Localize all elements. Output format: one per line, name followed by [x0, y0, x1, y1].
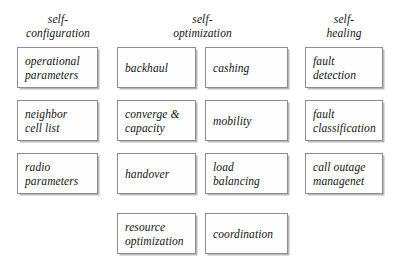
son-taxonomy-diagram: self- configuration self- optimization s… — [0, 0, 397, 268]
node-label: operational parameters — [25, 53, 80, 82]
node-coordination[interactable]: coordination — [205, 213, 288, 254]
node-handover[interactable]: handover — [117, 153, 196, 194]
node-label: backhaul — [125, 60, 168, 75]
node-converge-capacity[interactable]: converge & capacity — [117, 100, 196, 141]
node-label: fault detection — [313, 53, 356, 82]
node-label: neighbor cell list — [25, 106, 67, 135]
node-neighbor-cell-list[interactable]: neighbor cell list — [17, 100, 98, 141]
column-header-self-healing: self- healing — [305, 12, 383, 40]
node-label: mobility — [213, 113, 252, 128]
node-label: call outage managenet — [313, 159, 366, 188]
node-label: fault classification — [313, 106, 376, 135]
node-fault-classification[interactable]: fault classification — [305, 100, 383, 141]
node-label: converge & capacity — [125, 106, 180, 135]
node-call-outage-management[interactable]: call outage managenet — [305, 153, 383, 194]
node-label: resource optimization — [125, 219, 184, 248]
node-resource-optimization[interactable]: resource optimization — [117, 213, 196, 254]
node-fault-detection[interactable]: fault detection — [305, 47, 383, 88]
node-label: load balancing — [213, 159, 260, 188]
column-header-self-optimization: self- optimization — [117, 12, 288, 40]
node-mobility[interactable]: mobility — [205, 100, 288, 141]
node-label: handover — [125, 166, 169, 181]
node-label: cashing — [213, 60, 249, 75]
node-label: radio parameters — [25, 159, 78, 188]
node-operational-parameters[interactable]: operational parameters — [17, 47, 98, 88]
node-cashing[interactable]: cashing — [205, 47, 288, 88]
node-label: coordination — [213, 226, 273, 241]
node-load-balancing[interactable]: load balancing — [205, 153, 288, 194]
column-header-self-configuration: self- configuration — [17, 12, 99, 40]
node-radio-parameters[interactable]: radio parameters — [17, 153, 98, 194]
node-backhaul[interactable]: backhaul — [117, 47, 196, 88]
